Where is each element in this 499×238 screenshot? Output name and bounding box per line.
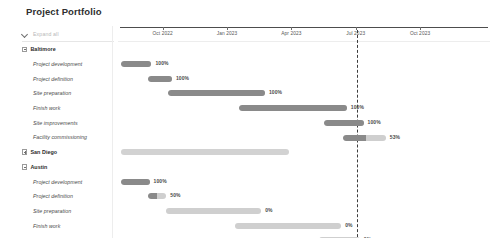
task-row[interactable]: Project definition bbox=[22, 71, 112, 86]
gantt-bar-row: 100% bbox=[118, 174, 490, 189]
gantt-bar-row: 53% bbox=[118, 130, 490, 145]
task-label: Finish work bbox=[33, 223, 60, 229]
panel-header-divider bbox=[22, 41, 114, 42]
group-row[interactable]: Baltimore bbox=[22, 42, 112, 57]
gantt-bar-row: 100% bbox=[118, 57, 490, 72]
collapse-group-icon[interactable] bbox=[22, 47, 27, 52]
task-label: Project definition bbox=[33, 76, 73, 82]
timeline-panel: Oct 2022Jan 2023Apr 2023Jul 2023Oct 2023… bbox=[118, 24, 490, 238]
gantt-bar-row bbox=[118, 160, 490, 175]
task-bar-progress-fill bbox=[324, 120, 363, 126]
group-label: Baltimore bbox=[30, 46, 55, 52]
task-row[interactable]: Site preparation bbox=[22, 204, 112, 219]
task-bar-progress-fill bbox=[121, 61, 152, 67]
progress-percent-label: 53% bbox=[390, 134, 400, 140]
task-bar-progress-fill bbox=[121, 179, 150, 185]
group-label: San Diego bbox=[30, 149, 57, 155]
gantt-bar-row: 50% bbox=[118, 189, 490, 204]
progress-percent-label: 100% bbox=[351, 104, 364, 110]
task-label: Site preparation bbox=[33, 208, 71, 214]
task-label: Site improvements bbox=[33, 120, 78, 126]
task-row[interactable]: Site preparation bbox=[22, 86, 112, 101]
task-bar[interactable] bbox=[319, 237, 360, 238]
task-row[interactable]: Finish work bbox=[22, 218, 112, 233]
gantt-chart-app: Project Portfolio Expand all BaltimorePr… bbox=[0, 0, 499, 238]
panel-vertical-divider bbox=[112, 26, 113, 238]
timeline-tick-label: Oct 2022 bbox=[152, 31, 172, 36]
timeline-axis bbox=[120, 27, 488, 28]
gantt-bar-row: 0% bbox=[118, 204, 490, 219]
group-label: Austin bbox=[30, 164, 47, 170]
task-bar[interactable] bbox=[324, 120, 363, 126]
timeline-tick bbox=[163, 27, 164, 30]
task-row[interactable]: Site improvements bbox=[22, 233, 112, 238]
task-label: Project development bbox=[33, 61, 82, 67]
task-row[interactable]: Project definition bbox=[22, 189, 112, 204]
timeline-tick-label: Jan 2023 bbox=[217, 31, 238, 36]
expand-all-label: Expand all bbox=[33, 31, 59, 37]
progress-percent-label: 0% bbox=[345, 222, 352, 228]
gantt-bar-row: 0% bbox=[118, 218, 490, 233]
summary-bar[interactable] bbox=[121, 149, 289, 155]
task-bar[interactable] bbox=[168, 90, 265, 96]
task-label: Facility commissioning bbox=[33, 134, 87, 140]
chevron-down-icon bbox=[22, 31, 29, 38]
task-bar-progress-fill bbox=[148, 193, 157, 199]
progress-percent-label: 50% bbox=[170, 192, 180, 198]
gantt-bar-row: 0% bbox=[118, 233, 490, 238]
timeline-tick-label: Jul 2023 bbox=[346, 31, 365, 36]
progress-percent-label: 0% bbox=[265, 207, 272, 213]
task-label: Finish work bbox=[33, 105, 60, 111]
task-row[interactable]: Finish work bbox=[22, 101, 112, 116]
gantt-bar-row: 100% bbox=[118, 86, 490, 101]
expand-all-button[interactable]: Expand all bbox=[22, 28, 59, 40]
gantt-bar-row bbox=[118, 145, 490, 160]
progress-percent-label: 100% bbox=[155, 60, 168, 66]
group-row[interactable]: Austin bbox=[22, 160, 112, 175]
task-list-panel: Expand all BaltimoreProject developmentP… bbox=[22, 24, 112, 238]
task-label: Site preparation bbox=[33, 90, 71, 96]
timeline-tick bbox=[420, 27, 421, 30]
progress-percent-label: 100% bbox=[368, 119, 381, 125]
task-label: Project definition bbox=[33, 193, 73, 199]
task-bar[interactable] bbox=[148, 76, 172, 82]
timeline-tick bbox=[227, 27, 228, 30]
task-bar[interactable] bbox=[166, 208, 261, 214]
progress-percent-label: 100% bbox=[269, 89, 282, 95]
task-bar[interactable] bbox=[239, 105, 347, 111]
gantt-bar-list: 100%100%100%100%100%53%100%50%0%0%0% bbox=[118, 42, 490, 238]
task-bar-progress-fill bbox=[168, 90, 265, 96]
task-bar[interactable] bbox=[343, 135, 386, 141]
gantt-bar-row: 100% bbox=[118, 115, 490, 130]
collapse-group-icon[interactable] bbox=[22, 164, 27, 169]
task-label: Site improvements bbox=[33, 237, 78, 238]
expand-group-icon[interactable] bbox=[22, 149, 27, 154]
task-bar-progress-fill bbox=[148, 76, 172, 82]
gantt-bar-row bbox=[118, 42, 490, 57]
task-bar[interactable] bbox=[235, 223, 341, 229]
timeline-tick-label: Oct 2023 bbox=[410, 31, 430, 36]
task-row[interactable]: Project development bbox=[22, 57, 112, 72]
task-bar[interactable] bbox=[148, 193, 167, 199]
task-bar[interactable] bbox=[121, 61, 152, 67]
task-row[interactable]: Site improvements bbox=[22, 115, 112, 130]
progress-percent-label: 100% bbox=[176, 75, 189, 81]
task-row[interactable]: Project development bbox=[22, 174, 112, 189]
progress-percent-label: 0% bbox=[364, 236, 371, 238]
task-bar[interactable] bbox=[121, 179, 150, 185]
page-title: Project Portfolio bbox=[26, 6, 102, 17]
task-row[interactable]: Facility commissioning bbox=[22, 130, 112, 145]
task-bar-progress-fill bbox=[343, 135, 366, 141]
timeline-tick-label: Apr 2023 bbox=[281, 31, 301, 36]
task-row-list: BaltimoreProject developmentProject defi… bbox=[22, 42, 112, 238]
progress-percent-label: 100% bbox=[154, 178, 167, 184]
group-row[interactable]: San Diego bbox=[22, 145, 112, 160]
task-bar-progress-fill bbox=[239, 105, 347, 111]
gantt-bar-row: 100% bbox=[118, 101, 490, 116]
timeline-tick bbox=[291, 27, 292, 30]
gantt-bar-row: 100% bbox=[118, 71, 490, 86]
task-label: Project development bbox=[33, 179, 82, 185]
